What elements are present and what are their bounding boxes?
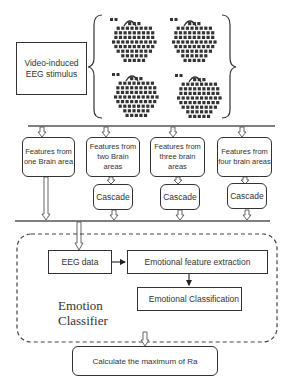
feature-3-line1: Features from bbox=[154, 142, 201, 152]
cascade-box-four-areas: Cascade bbox=[227, 183, 267, 209]
brain-map-3-icon bbox=[112, 73, 159, 117]
feature-box-four-areas: Features from four brain areas bbox=[217, 137, 272, 177]
feature-4-line1: Features from bbox=[221, 147, 268, 157]
feature-2-line1: Features from bbox=[90, 142, 137, 152]
stimulus-line1: Video-induced bbox=[24, 58, 78, 69]
left-brace bbox=[88, 15, 102, 118]
feature-1-line2: one Brain area bbox=[24, 157, 73, 167]
feature-1-line1: Features from bbox=[25, 147, 72, 157]
brain-map-1-icon bbox=[110, 18, 157, 62]
cascade-box-three-areas: Cascade bbox=[160, 184, 200, 210]
classifier-title: Emotion Classifier bbox=[58, 298, 108, 328]
feature-3-line2: three brain areas bbox=[151, 152, 204, 172]
video-stimulus-box: Video-induced EEG stimulus bbox=[16, 42, 87, 95]
feature-extraction-box: Emotional feature extraction bbox=[127, 250, 268, 274]
feature-box-two-areas: Features from two Brain areas bbox=[86, 137, 140, 177]
classifier-title-line1: Emotion bbox=[58, 298, 108, 313]
right-brace bbox=[222, 15, 236, 118]
feature-4-line2: four brain areas bbox=[218, 157, 271, 167]
feature-box-three-areas: Features from three brain areas bbox=[150, 137, 205, 177]
eeg-data-box: EEG data bbox=[48, 250, 112, 274]
stimulus-line2: EEG stimulus bbox=[26, 69, 78, 80]
feature-2-line2: two Brain areas bbox=[87, 152, 139, 172]
brain-map-4-icon bbox=[175, 74, 222, 118]
classifier-title-line2: Classifier bbox=[58, 313, 108, 328]
calculate-max-ra-box: Calculate the maximum of Ra bbox=[72, 346, 218, 376]
feature-box-one-area: Features from one Brain area bbox=[22, 137, 75, 177]
classification-box: Emotional Classification bbox=[137, 287, 242, 311]
cascade-box-two-areas: Cascade bbox=[93, 184, 133, 210]
brain-map-2-icon bbox=[170, 18, 217, 62]
